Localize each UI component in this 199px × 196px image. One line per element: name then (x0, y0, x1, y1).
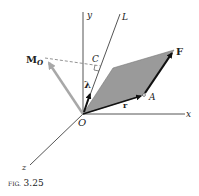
figure-caption: FIG. 3.25 (8, 178, 44, 188)
moment-label-subscript: O (37, 58, 44, 67)
x-axis-label: x (186, 109, 191, 119)
line-L-label: L (121, 12, 128, 22)
origin-label: O (78, 117, 86, 128)
point-C-label: C (92, 54, 99, 64)
y-axis-label: y (86, 10, 93, 20)
position-vector-r-label: r (123, 100, 128, 110)
figure-diagram: y L x z O C A F r λ MO FIG. 3.25 (0, 0, 199, 196)
force-F-label: F (176, 46, 183, 57)
unit-vector-lambda-label: λ (84, 79, 91, 90)
moment-vector-arrow (49, 63, 83, 114)
point-A-marker (143, 94, 146, 97)
right-angle-mark (94, 65, 99, 71)
caption-prefix: FIG. (8, 180, 21, 187)
point-A-label: A (148, 92, 156, 102)
z-axis-label: z (21, 163, 27, 172)
moment-label-main: M (26, 54, 37, 65)
caption-number: 3.25 (24, 178, 44, 188)
z-axis-line (30, 114, 83, 165)
moment-label: MO (26, 54, 44, 67)
